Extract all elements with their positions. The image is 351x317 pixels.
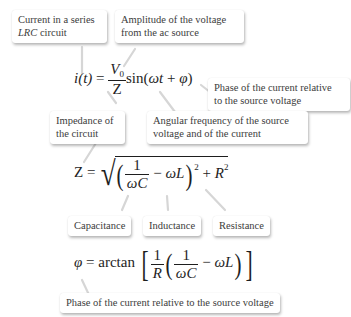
callout-phase-relative: Phase of the current relative to the sou… [208, 78, 350, 111]
leader-inductance [167, 196, 168, 210]
callout-resistance: Resistance [213, 216, 270, 236]
square-root: √(1ωC − ωL)2 + R2 [99, 156, 228, 191]
callout-text-line1: Amplitude of the voltage [121, 13, 238, 26]
callout-capacitance: Capacitance [68, 216, 131, 236]
callout-text-line2: the circuit [56, 127, 119, 140]
callout-text-line1: Impedance of [56, 114, 119, 127]
callout-text-line1: Phase of the current relative [214, 81, 344, 94]
eq-lhs: φ [74, 254, 82, 270]
callout-text-line2: LRC circuit [18, 26, 101, 39]
callout-impedance: Impedance of the circuit [50, 111, 125, 144]
callout-angular-frequency: Angular frequency of the source voltage … [147, 111, 308, 144]
callout-current-lrc: Current in a series LRC circuit [12, 10, 107, 43]
equation-impedance: Z = √(1ωC − ωL)2 + R2 [74, 156, 228, 191]
leader-resistance [206, 190, 225, 210]
leader-capacitance [122, 196, 128, 210]
eq-lhs: Z [74, 164, 83, 180]
callout-text-line1: Angular frequency of the source [153, 114, 302, 127]
callout-inductance: Inductance [143, 216, 201, 236]
callout-phase-bottom: Phase of the current relative to the sou… [60, 293, 280, 313]
equation-current: i(t) = V0 Z sin(ωt + φ) [74, 62, 193, 97]
callout-text-line2: voltage and of the current [153, 127, 302, 140]
callout-text-line1: Current in a series [18, 13, 101, 26]
eq-lhs: i(t) [74, 70, 92, 86]
callout-amplitude: Amplitude of the voltage from the ac sou… [115, 10, 244, 43]
callout-text-line2: from the ac source [121, 26, 238, 39]
fraction-v0-over-z: V0 Z [108, 62, 126, 97]
equation-phase: φ = arctan [1R(1ωC − ωL)] [74, 246, 255, 282]
callout-text-line2: to the source voltage [214, 94, 344, 107]
